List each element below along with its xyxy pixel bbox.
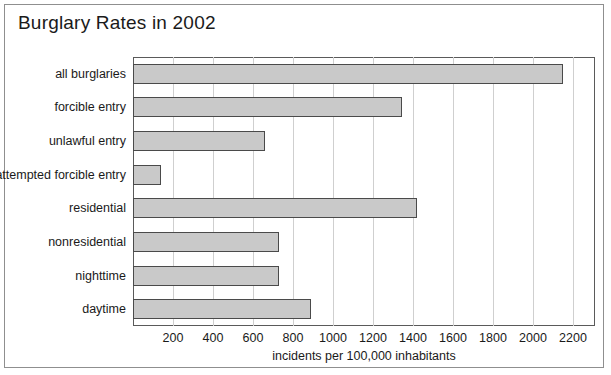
bar xyxy=(133,97,402,117)
bar-row xyxy=(133,225,595,259)
x-axis-tick-label: 1000 xyxy=(319,331,347,345)
page-title: Burglary Rates in 2002 xyxy=(18,12,216,34)
x-axis-tick-label: 1600 xyxy=(439,331,467,345)
x-axis-tick-label: 1800 xyxy=(479,331,507,345)
x-axis-tick-label: 1200 xyxy=(359,331,387,345)
bar-series xyxy=(133,57,595,326)
bar-row xyxy=(133,57,595,91)
x-axis-tick-label: 2000 xyxy=(519,331,547,345)
y-axis-tick-label: nonresidential xyxy=(48,235,126,249)
y-axis-tick-label: daytime xyxy=(82,302,126,316)
x-axis-tick-labels: 2004006008001000120014001600180020002200 xyxy=(133,331,595,347)
x-axis-tick-label: 1400 xyxy=(399,331,427,345)
plot-wrapper xyxy=(133,57,595,326)
y-axis-tick-label: all burglaries xyxy=(55,67,126,81)
bar xyxy=(133,64,563,84)
bar-row xyxy=(133,259,595,293)
chart-page: Burglary Rates in 2002 all burglariesfor… xyxy=(0,0,611,375)
x-axis-tick-label: 600 xyxy=(243,331,264,345)
y-axis-category-labels: all burglariesforcible entryunlawful ent… xyxy=(0,57,126,326)
bar xyxy=(133,266,279,286)
bar xyxy=(133,299,311,319)
bar xyxy=(133,198,417,218)
x-axis-label: incidents per 100,000 inhabitants xyxy=(133,349,595,363)
y-axis-tick-label: unlawful entry xyxy=(49,134,126,148)
y-axis-tick-label: forcible entry xyxy=(54,100,126,114)
bar-row xyxy=(133,124,595,158)
bar xyxy=(133,165,161,185)
y-axis-tick-label: residential xyxy=(69,201,126,215)
bar-row xyxy=(133,292,595,326)
bar-row xyxy=(133,158,595,192)
bar xyxy=(133,131,265,151)
y-axis-tick-label: attempted forcible entry xyxy=(0,168,126,182)
x-axis-tick-label: 800 xyxy=(283,331,304,345)
bar-row xyxy=(133,192,595,226)
y-axis-tick-label: nighttime xyxy=(75,269,126,283)
bar-row xyxy=(133,91,595,125)
x-axis-tick-label: 2200 xyxy=(559,331,587,345)
x-axis-tick-label: 200 xyxy=(163,331,184,345)
bar xyxy=(133,232,279,252)
x-axis-tick-label: 400 xyxy=(203,331,224,345)
